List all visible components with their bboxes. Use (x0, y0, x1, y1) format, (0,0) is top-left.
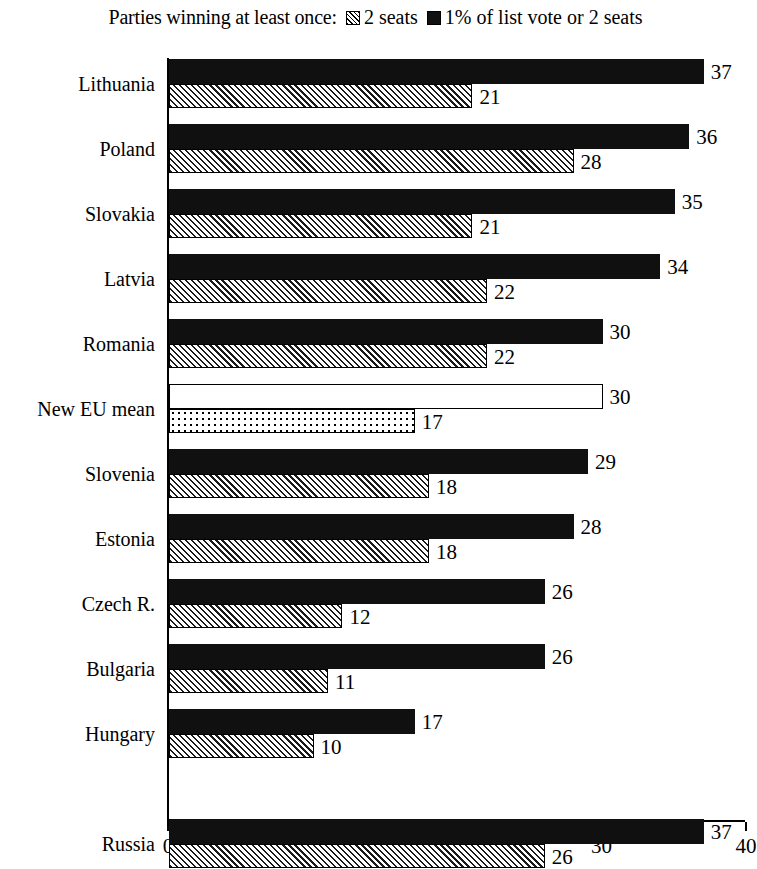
bar-value-lithuania-two-seats: 21 (479, 87, 500, 108)
bar-slovakia-list-vote (169, 189, 675, 214)
bar-value-slovakia-list-vote: 35 (682, 192, 703, 213)
category-label-latvia: Latvia (104, 269, 155, 289)
category-label-slovakia: Slovakia (85, 204, 155, 224)
bar-new-eu-mean-list-vote (169, 384, 603, 409)
category-label-bulgaria: Bulgaria (86, 659, 155, 679)
category-label-russia: Russia (102, 834, 155, 854)
bar-value-russia-two-seats: 26 (552, 847, 573, 868)
legend-entry-2-seats: 2 seats (346, 6, 418, 29)
bar-poland-list-vote (169, 124, 689, 149)
bar-value-new-eu-mean-list-vote: 30 (610, 387, 631, 408)
bar-value-bulgaria-list-vote: 26 (552, 647, 573, 668)
bar-value-slovenia-two-seats: 18 (436, 477, 457, 498)
bar-value-bulgaria-two-seats: 11 (335, 672, 355, 693)
x-tick-40 (745, 822, 747, 831)
bar-romania-two-seats (169, 344, 487, 368)
category-label-czech-r-: Czech R. (82, 594, 155, 614)
category-label-slovenia: Slovenia (85, 464, 155, 484)
category-label-lithuania: Lithuania (78, 74, 155, 94)
bar-value-latvia-list-vote: 34 (667, 257, 688, 278)
solid-square-icon (427, 11, 441, 25)
bar-value-czech-r--two-seats: 12 (349, 607, 370, 628)
bar-value-poland-list-vote: 36 (696, 127, 717, 148)
bar-russia-list-vote (169, 819, 704, 844)
legend-label-2-seats: 2 seats (364, 6, 418, 29)
bar-value-hungary-list-vote: 17 (422, 712, 443, 733)
bar-slovenia-two-seats (169, 474, 429, 498)
bar-hungary-two-seats (169, 734, 314, 758)
bar-value-slovenia-list-vote: 29 (595, 452, 616, 473)
bar-romania-list-vote (169, 319, 603, 344)
bar-estonia-list-vote (169, 514, 574, 539)
bar-czech-r--two-seats (169, 604, 342, 628)
x-tick-label-40: 40 (736, 834, 757, 859)
bar-hungary-list-vote (169, 709, 415, 734)
bar-latvia-list-vote (169, 254, 660, 279)
bar-bulgaria-list-vote (169, 644, 545, 669)
bar-value-slovakia-two-seats: 21 (479, 217, 500, 238)
bar-value-lithuania-list-vote: 37 (711, 62, 732, 83)
bar-value-romania-two-seats: 22 (494, 347, 515, 368)
bar-new-eu-mean-two-seats (169, 409, 415, 433)
bar-czech-r--list-vote (169, 579, 545, 604)
legend-label-list-vote: 1% of list vote or 2 seats (445, 6, 643, 29)
bar-poland-two-seats (169, 149, 574, 173)
category-label-new-eu-mean: New EU mean (37, 399, 155, 419)
bar-bulgaria-two-seats (169, 669, 328, 693)
bar-value-czech-r--list-vote: 26 (552, 582, 573, 603)
bar-value-estonia-two-seats: 18 (436, 542, 457, 563)
bar-value-romania-list-vote: 30 (610, 322, 631, 343)
chart-title: Parties winning at least once: (108, 6, 336, 29)
bar-latvia-two-seats (169, 279, 487, 303)
bar-lithuania-list-vote (169, 59, 704, 84)
hatch-square-icon (346, 11, 360, 25)
bar-value-estonia-list-vote: 28 (581, 517, 602, 538)
chart-plot-area: 010203040 372136283521342230223017291828… (0, 34, 751, 864)
bar-lithuania-two-seats (169, 84, 472, 108)
bar-value-new-eu-mean-two-seats: 17 (422, 412, 443, 433)
bar-russia-two-seats (169, 844, 545, 868)
chart-legend: Parties winning at least once: 2 seats 1… (0, 0, 751, 34)
category-label-estonia: Estonia (95, 529, 155, 549)
category-label-poland: Poland (99, 139, 155, 159)
bar-slovenia-list-vote (169, 449, 588, 474)
bar-slovakia-two-seats (169, 214, 472, 238)
category-label-romania: Romania (83, 334, 155, 354)
bar-value-poland-two-seats: 28 (581, 152, 602, 173)
category-label-hungary: Hungary (85, 724, 155, 744)
bar-value-latvia-two-seats: 22 (494, 282, 515, 303)
legend-entry-list-vote: 1% of list vote or 2 seats (427, 6, 643, 29)
bar-value-russia-list-vote: 37 (711, 822, 732, 843)
bar-estonia-two-seats (169, 539, 429, 563)
bar-value-hungary-two-seats: 10 (321, 737, 342, 758)
